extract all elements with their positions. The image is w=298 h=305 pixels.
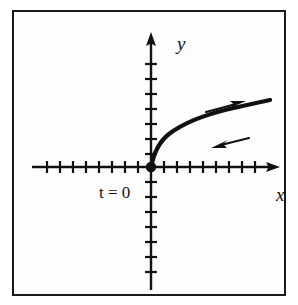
direction-arrow-left (211, 138, 249, 148)
y-axis-label: y (177, 34, 185, 53)
plot-frame: y x t = 0 (12, 10, 286, 296)
figure-root: y x t = 0 (0, 0, 298, 305)
coordinate-plot (14, 12, 284, 294)
origin-annotation-label: t = 0 (99, 184, 130, 201)
x-axis-label: x (276, 185, 284, 204)
initial-point-marker (146, 162, 156, 172)
